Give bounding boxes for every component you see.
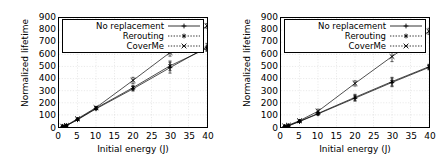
- legend-label: No replacement: [96, 21, 167, 31]
- y-tick-label: 900: [28, 13, 56, 22]
- legend: No replacementReroutingCoverMe: [284, 19, 426, 53]
- x-axis-title: Initial energy (J): [280, 144, 430, 154]
- y-tick-label: 800: [250, 25, 278, 34]
- legend-plus-icon: [167, 21, 201, 31]
- legend-item: Rerouting: [287, 31, 423, 41]
- legend-label: CoverMe: [127, 41, 167, 51]
- legend-label: No replacement: [318, 21, 389, 31]
- x-tick-label: 40: [197, 131, 219, 141]
- legend-item: CoverMe: [65, 41, 201, 51]
- y-tick-label: 500: [28, 62, 56, 71]
- legend-asterisk-icon: [389, 31, 423, 41]
- y-tick-label: 500: [250, 62, 278, 71]
- legend-label: CoverMe: [349, 41, 389, 51]
- y-tick-label: 600: [250, 50, 278, 59]
- legend: No replacementReroutingCoverMe: [62, 19, 204, 53]
- chart-panel-right: Normalized lifetime 01002003004005006007…: [222, 0, 444, 165]
- y-tick-label: 200: [28, 99, 56, 108]
- y-tick-label: 200: [250, 99, 278, 108]
- legend-item: CoverMe: [287, 41, 423, 51]
- x-axis-title: Initial energy (J): [58, 144, 208, 154]
- legend-plus-icon: [389, 21, 423, 31]
- y-tick-label: 100: [28, 111, 56, 120]
- y-tick-label: 700: [28, 37, 56, 46]
- y-tick-label: 900: [250, 13, 278, 22]
- legend-asterisk-icon: [167, 31, 201, 41]
- legend-item: No replacement: [65, 21, 201, 31]
- chart-panel-left: Normalized lifetime 01002003004005006007…: [0, 0, 222, 165]
- y-tick-label: 100: [250, 111, 278, 120]
- y-tick-label: 400: [28, 74, 56, 83]
- legend-item: No replacement: [287, 21, 423, 31]
- y-tick-label: 400: [250, 74, 278, 83]
- x-tick-label: 40: [419, 131, 441, 141]
- y-tick-label: 600: [28, 50, 56, 59]
- legend-item: Rerouting: [65, 31, 201, 41]
- y-tick-label: 700: [250, 37, 278, 46]
- y-tick-label: 800: [28, 25, 56, 34]
- y-tick-label: 300: [250, 87, 278, 96]
- legend-label: Rerouting: [345, 31, 389, 41]
- y-tick-label: 300: [28, 87, 56, 96]
- legend-cross-icon: [389, 41, 423, 51]
- figure: Normalized lifetime 01002003004005006007…: [0, 0, 444, 165]
- legend-cross-icon: [167, 41, 201, 51]
- legend-label: Rerouting: [123, 31, 167, 41]
